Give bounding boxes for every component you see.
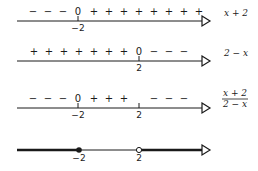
- zero-marker: 0: [75, 6, 81, 17]
- arrow-head-icon: [202, 145, 210, 155]
- plus-sign: +: [195, 6, 203, 17]
- plus-sign: +: [120, 6, 128, 17]
- expression-label: 2 − x: [223, 48, 248, 58]
- tick-label: −2: [71, 23, 84, 33]
- minus-sign: −: [165, 93, 173, 104]
- arrow-head-icon: [202, 103, 210, 113]
- fraction-numerator: x + 2: [223, 88, 247, 98]
- tick-label: −2: [71, 110, 84, 120]
- plus-sign: +: [120, 93, 128, 104]
- closed-endpoint-icon: [76, 147, 82, 153]
- minus-sign: −: [29, 93, 37, 104]
- minus-sign: −: [44, 6, 52, 17]
- plus-sign: +: [90, 93, 98, 104]
- minus-sign: −: [180, 46, 188, 57]
- plus-sign: +: [165, 6, 173, 17]
- open-endpoint-icon: [136, 147, 141, 152]
- plus-sign: +: [30, 46, 38, 57]
- plus-sign: +: [45, 46, 53, 57]
- plus-sign: +: [120, 46, 128, 57]
- minus-sign: −: [59, 93, 67, 104]
- plus-sign: +: [135, 6, 143, 17]
- minus-sign: −: [44, 93, 52, 104]
- arrow-head-icon: [202, 16, 210, 26]
- plus-sign: +: [60, 46, 68, 57]
- point-label: 2: [136, 153, 142, 163]
- plus-sign: +: [105, 46, 113, 57]
- plus-sign: +: [105, 93, 113, 104]
- zero-marker: 0: [75, 93, 81, 104]
- point-label: −2: [72, 153, 85, 163]
- tick-label: 2: [136, 63, 142, 73]
- plus-sign: +: [75, 46, 83, 57]
- plus-sign: +: [90, 46, 98, 57]
- plus-sign: +: [150, 6, 158, 17]
- plus-sign: +: [180, 6, 188, 17]
- zero-marker: 0: [136, 46, 142, 57]
- minus-sign: −: [29, 6, 37, 17]
- fraction-denominator: 2 − x: [222, 99, 247, 109]
- minus-sign: −: [180, 93, 188, 104]
- minus-sign: −: [150, 93, 158, 104]
- tick-label: 2: [136, 110, 142, 120]
- plus-sign: +: [105, 6, 113, 17]
- minus-sign: −: [59, 6, 67, 17]
- minus-sign: −: [150, 46, 158, 57]
- plus-sign: +: [90, 6, 98, 17]
- minus-sign: −: [165, 46, 173, 57]
- arrow-head-icon: [202, 56, 210, 66]
- sign-chart-diagram: −−−0++++++++−2x + 2+++++++0−−−22 − x−−−0…: [0, 0, 258, 171]
- expression-label: x + 2: [224, 8, 248, 18]
